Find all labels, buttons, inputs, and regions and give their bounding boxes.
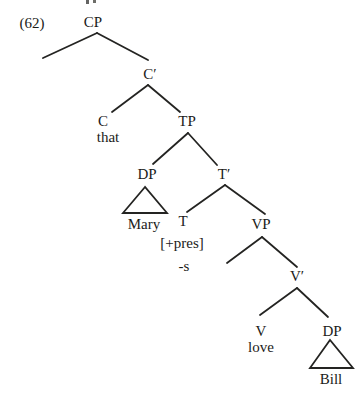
edge-tp-tbar bbox=[188, 133, 217, 165]
triangle-dp-bill bbox=[310, 340, 353, 368]
edge-vbar-dp bbox=[297, 288, 328, 317]
edge-cbar-tp bbox=[148, 85, 180, 112]
scanned-book-page: (62) CPC′CthatTPDPMaryT′T[+pres]-sVPV′Vl… bbox=[0, 0, 362, 395]
tree-node-v: V bbox=[256, 324, 267, 339]
edge-vbar-v bbox=[260, 288, 297, 315]
tree-node-cp: CP bbox=[84, 15, 102, 30]
tree-node-c-word-that: that bbox=[97, 130, 120, 145]
edge-tbar-t bbox=[187, 185, 225, 212]
edge-cp-specifier bbox=[43, 33, 97, 58]
edge-cp-cbar bbox=[97, 33, 148, 60]
tree-node-v-word-love: love bbox=[248, 340, 274, 355]
tree-node-dp-object: DP bbox=[322, 324, 341, 339]
tree-node-dp-word-bill: Bill bbox=[320, 372, 343, 387]
tree-node-tp: TP bbox=[178, 114, 196, 129]
edge-tbar-vp bbox=[225, 185, 265, 214]
tree-node-v-bar: V′ bbox=[290, 269, 304, 284]
tree-node-t-affix: -s bbox=[179, 259, 190, 274]
tree-node-t-bar: T′ bbox=[218, 167, 230, 182]
tree-node-c-bar: C′ bbox=[143, 67, 156, 82]
tree-node-t-feature: [+pres] bbox=[160, 236, 203, 251]
edge-cbar-c bbox=[112, 85, 148, 112]
edge-vp-vbar bbox=[262, 237, 297, 267]
triangle-dp-mary bbox=[123, 187, 167, 213]
tree-node-dp-subject: DP bbox=[137, 167, 156, 182]
tree-node-vp: VP bbox=[251, 217, 270, 232]
tree-node-t: T bbox=[178, 214, 187, 229]
tree-node-dp-word-mary: Mary bbox=[128, 217, 161, 232]
syntax-tree-lines bbox=[0, 0, 362, 395]
tree-node-c: C bbox=[98, 114, 108, 129]
edge-tp-dp bbox=[153, 133, 188, 164]
edge-vp-specifier bbox=[227, 237, 262, 263]
